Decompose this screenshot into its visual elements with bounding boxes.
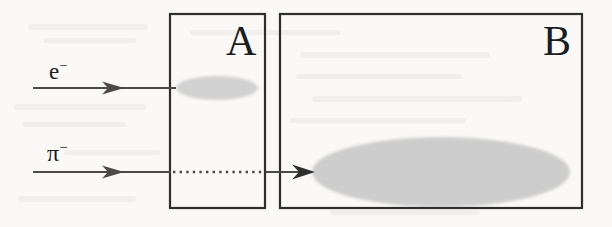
electron-beam-label: e−: [49, 58, 68, 83]
detector-schematic-svg: [0, 0, 612, 227]
detector-a-label: A: [226, 20, 256, 62]
em-shower-blob: [176, 76, 258, 100]
detector-b-label: B: [543, 20, 571, 62]
figure-canvas: A B e− π−: [0, 0, 612, 227]
hadronic-shower-blob: [312, 137, 570, 207]
pion-symbol: π: [47, 140, 59, 166]
electron-symbol: e: [49, 59, 59, 84]
electron-charge-superscript: −: [59, 57, 68, 73]
pion-charge-superscript: −: [59, 139, 68, 155]
pion-beam-label: π−: [47, 140, 68, 165]
